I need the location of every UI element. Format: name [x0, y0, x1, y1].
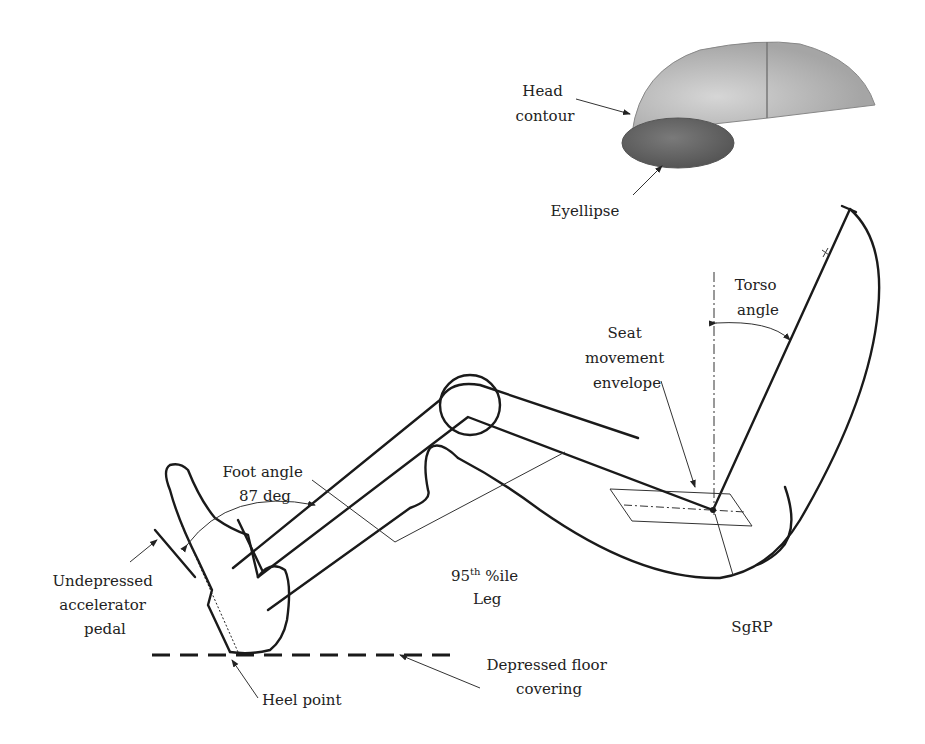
leg-percentile-label: 95th %ile Leg — [451, 566, 523, 608]
floor-leader — [400, 655, 480, 688]
accelerator-leader — [130, 540, 157, 562]
leg-outline — [230, 375, 713, 653]
torso-angle-label: Torso angle — [735, 276, 782, 319]
leg-dimension-bracket — [312, 452, 565, 542]
seat-envelope-label: Seat movement envelope — [585, 324, 669, 392]
foot-angle-label: Foot angle 87 deg — [222, 463, 307, 505]
eyellipse — [622, 118, 734, 168]
eyellipse-leader — [633, 166, 662, 195]
head-contour-leader — [576, 99, 630, 114]
eyellipse-label: Eyellipse — [551, 202, 620, 220]
seat-movement-envelope — [610, 489, 752, 526]
head-contour-label: Head contour — [516, 82, 576, 125]
seat-envelope-leader — [661, 381, 695, 487]
torso-angle-arc — [716, 323, 790, 340]
heel-point-label: Heel point — [262, 691, 342, 709]
floor-covering-label: Depressed floor covering — [486, 656, 611, 698]
sgrp-leader — [715, 514, 733, 575]
accelerator-label: Undepressed accelerator pedal — [52, 572, 157, 638]
driver-posture-diagram: Head contour Eyellipse Torso angle Seat … — [0, 0, 925, 744]
sgrp-label: SgRP — [731, 618, 772, 636]
accelerator-pedal — [155, 530, 195, 577]
heel-point-leader — [232, 660, 258, 698]
